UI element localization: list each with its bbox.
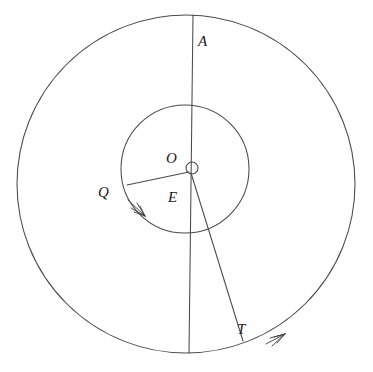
label-earth: E (167, 189, 177, 205)
label-apogee: A (197, 33, 208, 49)
diagram-background (0, 0, 373, 372)
label-quadrature: Q (98, 184, 109, 200)
label-center: O (166, 150, 177, 166)
diagram-canvas: A O E Q T (0, 0, 373, 372)
geometry-diagram: A O E Q T (0, 0, 373, 372)
